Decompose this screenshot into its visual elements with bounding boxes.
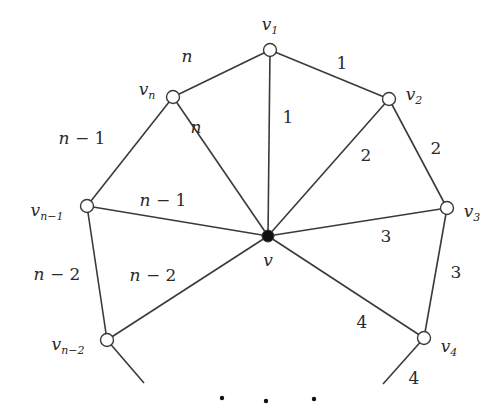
rim-label-v4-more: 4 (409, 370, 420, 387)
ellipsis-dot-0 (220, 396, 224, 400)
vertex-v2 (383, 93, 396, 106)
ellipsis-dot-2 (312, 397, 316, 401)
rim-edge-vn2-vn1 (87, 206, 107, 340)
spoke-edge-vn2 (107, 236, 268, 340)
vertex-v4 (418, 332, 431, 345)
spoke-edge-v3 (268, 208, 447, 236)
hub-label: v (263, 252, 273, 269)
hub-vertex (262, 230, 274, 242)
spoke-label-v-v3: 3 (381, 228, 392, 245)
rim-edge-v1-v2 (270, 50, 389, 99)
spoke-edge-v4 (268, 236, 424, 338)
rim-label-v1-v2: 1 (337, 55, 348, 72)
vertex-label-v3: v3 (464, 203, 481, 220)
vertex-v3 (441, 202, 454, 215)
dangling-edge-vn2 (107, 340, 144, 383)
vertex-vn1 (81, 200, 94, 213)
vertex-vn2 (101, 334, 114, 347)
spoke-label-v-v2: 2 (361, 147, 372, 164)
spoke-edge-vn (173, 97, 268, 236)
rim-label-vn1-vn: n − 1 (59, 130, 106, 147)
vertex-label-vn: vn (139, 81, 156, 98)
spoke-edge-v1 (268, 50, 270, 236)
rim-label-v3-v4: 3 (451, 264, 462, 281)
spoke-label-v-vn2: n − 2 (130, 267, 177, 284)
vertex-label-vn2: vn−2 (52, 336, 85, 353)
rim-label-v2-v3: 2 (431, 140, 442, 157)
rim-edge-v3-v4 (424, 208, 447, 338)
ellipsis-dot-1 (264, 399, 268, 403)
spoke-label-v-v4: 4 (357, 314, 368, 331)
vertex-vn (167, 91, 180, 104)
spoke-label-v-vn: n (191, 119, 202, 136)
vertex-v1 (264, 44, 277, 57)
rim-label-vn-v1: n (182, 48, 193, 65)
vertex-label-v4: v4 (441, 338, 458, 355)
spoke-edge-vn1 (87, 206, 268, 236)
spoke-label-v-vn1: n − 1 (140, 192, 187, 209)
spoke-label-v-v1: 1 (283, 109, 294, 126)
vertex-label-v1: v1 (262, 16, 279, 33)
rim-label-vn2-vn1: n − 2 (34, 266, 81, 283)
vertex-label-v2: v2 (406, 86, 423, 103)
vertex-label-vn1: vn−1 (31, 202, 64, 219)
